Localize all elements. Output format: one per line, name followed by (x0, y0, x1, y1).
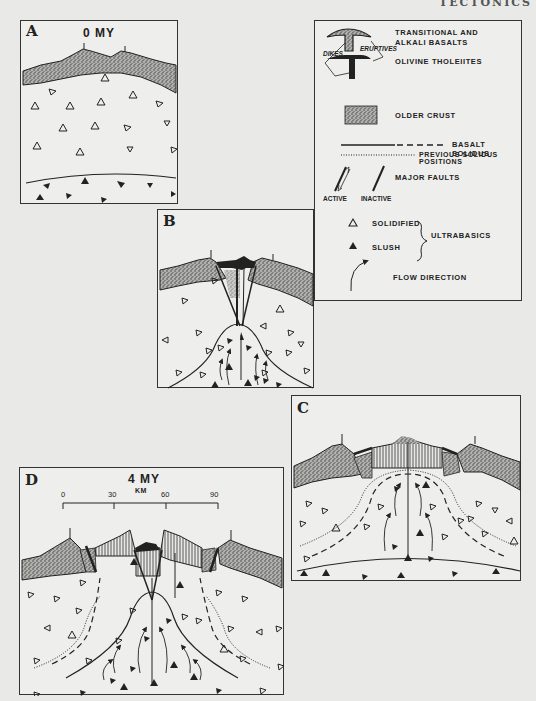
panel-d: D 4 MY KM 0 30 60 90 (19, 467, 284, 695)
panel-c: C (291, 395, 521, 581)
legend-label-major-faults: MAJOR FAULTS (395, 173, 460, 182)
legend-label-older-crust: OLDER CRUST (395, 111, 456, 120)
panel-a-diagram (21, 21, 179, 205)
legend-label-previous-solidus: PREVIOUS SOLIDUS POSITIONS (419, 151, 521, 165)
legend-annotation-active: ACTIVE (323, 195, 347, 202)
slush-triangles (36, 177, 176, 203)
panel-b-diagram (158, 210, 315, 389)
panel-c-diagram (292, 396, 522, 582)
legend-label-solidified: SOLIDIFIED (372, 219, 420, 228)
panel-b: B (157, 209, 314, 388)
panel-d-diagram (20, 468, 285, 696)
legend-label-alkali-basalts: TRANSITIONAL AND ALKALI BASALTS (395, 28, 505, 48)
legend-annotation-inactive: INACTIVE (361, 195, 391, 202)
solidified-triangles (31, 74, 177, 155)
legend-label-olivine-tholeiites: OLIVINE THOLEIITES (395, 57, 482, 66)
legend-panel: TRANSITIONAL AND ALKALI BASALTS DIKES ER… (314, 20, 522, 301)
legend-label-ultrabasics: ULTRABASICS (431, 231, 491, 240)
scale-bar (63, 503, 218, 509)
legend-label-slush: SLUSH (372, 243, 400, 252)
legend-label-flow-direction: FLOW DIRECTION (393, 273, 467, 282)
page-header: TECTONICS (439, 0, 532, 9)
legend-annotation-eruptives: ERUPTIVES (360, 45, 397, 52)
panel-a: A 0 MY (20, 20, 178, 204)
legend-annotation-dikes: DIKES (323, 50, 343, 57)
